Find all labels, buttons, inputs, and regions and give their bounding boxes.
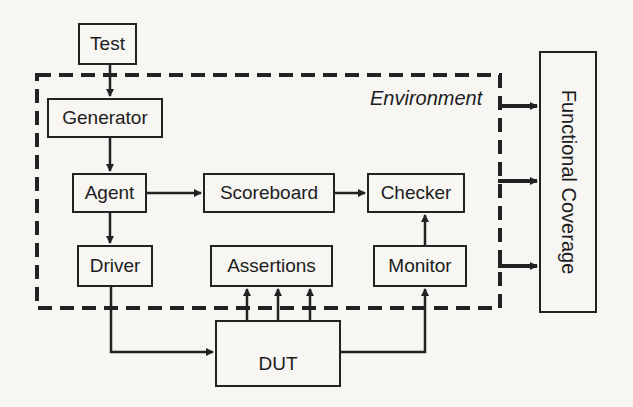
- monitor-node: Monitor: [373, 245, 467, 287]
- checker-node: Checker: [367, 173, 465, 213]
- scoreboard-node: Scoreboard: [203, 173, 335, 213]
- arrow-dut-monitor: [341, 289, 425, 352]
- functional-coverage-label: Functional Coverage: [557, 90, 580, 275]
- assertions-node: Assertions: [210, 245, 333, 287]
- arrow-driver-dut: [111, 287, 213, 352]
- dut-node: DUT: [215, 320, 341, 387]
- environment-label: Environment: [370, 87, 482, 110]
- driver-node: Driver: [77, 245, 153, 287]
- agent-node: Agent: [72, 173, 147, 213]
- generator-node: Generator: [47, 98, 163, 138]
- test-node: Test: [78, 23, 137, 65]
